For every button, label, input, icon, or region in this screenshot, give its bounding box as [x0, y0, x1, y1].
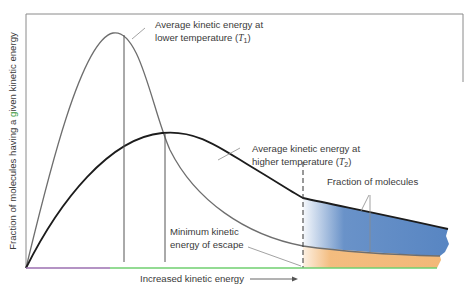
- x-axis-label-group: Increased kinetic energy: [140, 273, 298, 284]
- x-axis-label: Increased kinetic energy: [140, 273, 244, 284]
- y-axis-label: Fraction of molecules having a given kin…: [7, 32, 18, 250]
- svg-text:energy of escape: energy of escape: [170, 239, 244, 250]
- svg-text:higher temperature (T2): higher temperature (T2): [252, 156, 351, 168]
- fraction-region-t2: [303, 198, 449, 256]
- svg-text:Average kinetic energy at: Average kinetic energy at: [252, 143, 360, 154]
- arrow-head-icon: [292, 277, 298, 282]
- annotation-fraction-of-molecules: Fraction of molecules: [327, 176, 418, 187]
- svg-text:Average kinetic energy at: Average kinetic energy at: [155, 19, 263, 30]
- leader-t1: [132, 28, 145, 39]
- svg-text:Minimum kinetic: Minimum kinetic: [170, 226, 239, 237]
- leader-fraction-a: [361, 195, 369, 211]
- leader-escape: [248, 247, 301, 266]
- annotation-minimum-escape-energy: Minimum kinetic energy of escape: [170, 226, 244, 250]
- svg-text:lower temperature (T1): lower temperature (T1): [155, 32, 251, 44]
- kinetic-energy-distribution-diagram: Average kinetic energy at lower temperat…: [0, 0, 471, 287]
- annotation-lower-temperature: Average kinetic energy at lower temperat…: [155, 19, 263, 44]
- annotation-higher-temperature: Average kinetic energy at higher tempera…: [252, 143, 360, 168]
